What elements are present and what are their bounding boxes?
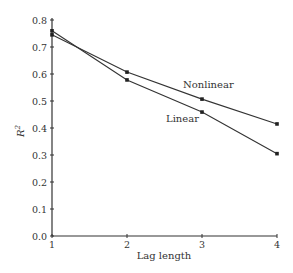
data-point-marker xyxy=(275,152,279,156)
y-tick-label: 0.0 xyxy=(32,231,47,242)
data-point-marker xyxy=(200,97,204,101)
y-tick-label: 0.7 xyxy=(32,42,47,53)
series-line-nonlinear xyxy=(52,35,277,124)
data-point-marker xyxy=(125,70,129,74)
y-ticks: 0.00.10.20.30.40.50.60.70.8 xyxy=(32,15,54,242)
x-tick-label: 3 xyxy=(199,239,205,250)
x-tick-label: 4 xyxy=(274,239,280,250)
y-tick-label: 0.5 xyxy=(32,96,47,107)
x-tick-label: 2 xyxy=(124,239,130,250)
data-point-marker xyxy=(50,29,54,33)
y-tick-label: 0.6 xyxy=(32,69,47,80)
series-label-linear: Linear xyxy=(166,113,199,124)
y-tick-label: 0.1 xyxy=(32,204,47,215)
y-tick-label: 0.2 xyxy=(32,177,47,188)
y-tick-label: 0.4 xyxy=(32,123,47,134)
series-line-linear xyxy=(52,31,277,154)
data-point-marker xyxy=(200,110,204,114)
line-chart: 0.00.10.20.30.40.50.60.70.8 1234 Lag len… xyxy=(0,0,293,273)
series-label-nonlinear: Nonlinear xyxy=(183,79,234,90)
y-axis-label: R2 xyxy=(14,124,26,138)
y-tick-label: 0.8 xyxy=(32,15,47,26)
x-axis-label: Lag length xyxy=(137,250,192,261)
data-point-marker xyxy=(125,78,129,82)
x-tick-label: 1 xyxy=(49,239,55,250)
series-lines xyxy=(50,29,279,155)
data-point-marker xyxy=(50,33,54,37)
y-tick-label: 0.3 xyxy=(32,150,47,161)
data-point-marker xyxy=(275,122,279,126)
